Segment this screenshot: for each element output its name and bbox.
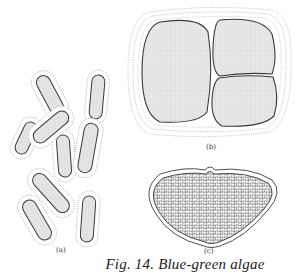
panel-c-colony [149,167,277,248]
panel-b-colony [128,7,291,136]
panel-a-label: (a) [56,246,66,254]
figure-caption: Fig. 14. Blue-green algae [0,256,295,273]
algae-illustration [0,0,295,274]
panel-a-rods [7,66,111,249]
panel-c-label: (c) [204,247,213,255]
algae-figure: (a) (b) (c) Fig. 14. Blue-green algae [0,0,295,274]
panel-b-label: (b) [206,143,216,151]
